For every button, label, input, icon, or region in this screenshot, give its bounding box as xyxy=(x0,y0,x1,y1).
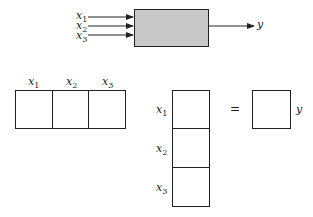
row-label-x3: x3 xyxy=(102,76,113,91)
col-label-x2: x2 xyxy=(156,143,167,158)
row-cell-3 xyxy=(88,90,126,129)
result-cell xyxy=(252,90,291,129)
col-label-x3: x3 xyxy=(156,182,167,197)
system-block xyxy=(134,9,209,47)
row-cell-1 xyxy=(15,90,53,129)
col-cell-3 xyxy=(172,167,210,207)
col-cell-1 xyxy=(172,90,210,129)
row-label-x2: x2 xyxy=(66,76,77,91)
row-label-x1: x1 xyxy=(28,76,39,91)
col-cell-2 xyxy=(172,128,210,168)
result-label-y: y xyxy=(296,104,302,115)
input-label-x3: x3 xyxy=(76,30,87,45)
col-label-x1: x1 xyxy=(156,104,167,119)
row-cell-2 xyxy=(52,90,89,129)
equals-sign: = xyxy=(230,104,240,115)
output-label-y: y xyxy=(257,19,263,30)
